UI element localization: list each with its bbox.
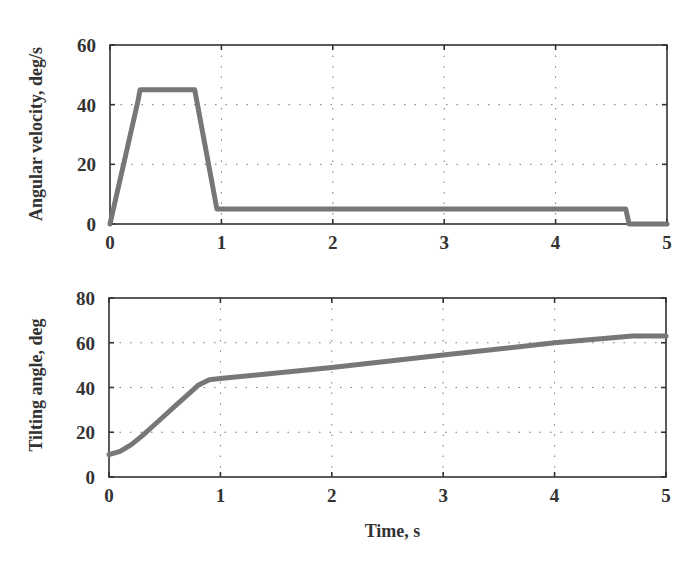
x-tick-label: 0: [104, 485, 114, 506]
y-tick-label: 0: [87, 214, 97, 235]
x-tick-label: 5: [662, 232, 672, 253]
y-axis-label: Tilting angle, deg: [26, 318, 46, 451]
y-tick-label: 20: [77, 154, 96, 175]
x-tick-label: 1: [216, 485, 226, 506]
y-axis-label: Angular velocity, deg/s: [26, 47, 46, 221]
y-tick-label: 40: [76, 378, 95, 399]
x-tick-label: 4: [550, 485, 560, 506]
x-tick-label: 3: [439, 232, 449, 253]
figure: 0123450204060Angular velocity, deg/s0123…: [0, 0, 699, 569]
angular-velocity-plot: 0123450204060Angular velocity, deg/s: [26, 35, 672, 253]
y-tick-label: 20: [76, 422, 95, 443]
x-tick-label: 1: [217, 232, 227, 253]
plot-frame: [110, 45, 667, 224]
y-tick-label: 40: [77, 95, 96, 116]
y-tick-label: 60: [77, 35, 96, 56]
x-tick-label: 5: [661, 485, 671, 506]
y-tick-label: 0: [86, 467, 96, 488]
x-tick-label: 4: [551, 232, 561, 253]
x-tick-label: 0: [105, 232, 115, 253]
x-tick-label: 3: [438, 485, 448, 506]
data-series-line: [110, 90, 667, 224]
x-axis-label: Time, s: [365, 521, 421, 541]
x-tick-label: 2: [328, 232, 338, 253]
y-tick-label: 60: [76, 333, 95, 354]
tilting-angle-plot: 012345020406080Tilting angle, degTime, s: [26, 288, 671, 541]
y-tick-label: 80: [76, 288, 95, 309]
data-series-line: [109, 336, 666, 455]
x-tick-label: 2: [327, 485, 337, 506]
